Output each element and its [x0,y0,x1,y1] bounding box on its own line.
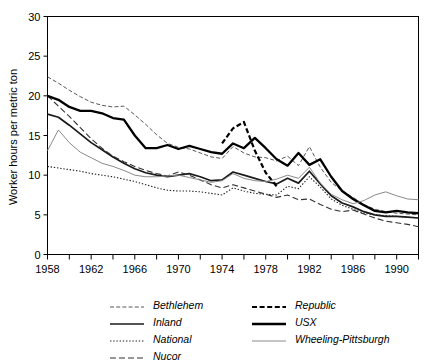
legend-swatch [110,299,144,311]
legend-swatch [252,316,286,328]
legend-item-label: Wheeling-Pittsburgh [295,333,390,345]
legend-item-label: USX [295,316,317,328]
series-line-nucor [48,96,419,227]
y-axis-label-text: Worker hours per metric ton [7,69,19,205]
x-tick-label: 1974 [210,263,234,275]
series-line-usx [48,96,419,213]
legend-item-wheeling-pittsburgh[interactable]: Wheeling-Pittsburgh [252,330,390,347]
legend-item-republic[interactable]: Republic [252,296,390,313]
y-tick-label: 5 [34,209,40,221]
x-tick-label: 1986 [341,263,365,275]
y-axis-label: Worker hours per metric ton [7,69,19,205]
legend-item-inland[interactable]: Inland [110,313,203,330]
y-tick-label: 20 [28,90,40,102]
legend-line-sample [110,335,144,347]
x-axis-ticks: 195819621966197019741978198219861990 [35,255,418,275]
legend-column-right: RepublicUSXWheeling-Pittsburgh [252,296,390,347]
x-tick-label: 1982 [297,263,321,275]
legend-line-sample [110,318,144,330]
series-line-bethlehem [48,77,419,215]
x-tick-label: 1990 [384,263,408,275]
legend-item-label: Inland [153,316,182,328]
plot-frame [48,17,419,255]
legend-line-sample [110,301,144,313]
legend-line-sample [252,318,286,330]
series-lines [48,77,419,227]
legend-item-label: National [153,333,192,345]
legend-item-bethlehem[interactable]: Bethlehem [110,296,203,313]
legend-line-sample [110,352,144,363]
legend-item-national[interactable]: National [110,330,203,347]
x-tick-label: 1978 [253,263,277,275]
series-line-wheeling-pittsburgh [48,130,419,204]
y-tick-label: 25 [28,50,40,62]
y-tick-label: 15 [28,130,40,142]
legend-column-left: BethlehemInlandNationalNucor [110,296,203,363]
legend-swatch [252,299,286,311]
chart-legend: BethlehemInlandNationalNucor RepublicUSX… [110,296,430,362]
y-axis-ticks: 051015202530 [28,11,47,261]
y-tick-label: 10 [28,169,40,181]
chart-figure: Worker hours per metric ton 051015202530… [0,0,432,363]
legend-swatch [252,333,286,345]
legend-swatch [110,350,144,362]
x-tick-label: 1958 [35,263,59,275]
x-tick-label: 1962 [79,263,103,275]
legend-line-sample [252,301,286,313]
legend-swatch [110,316,144,328]
legend-item-label: Nucor [153,350,181,362]
legend-item-usx[interactable]: USX [252,313,390,330]
legend-item-label: Bethlehem [153,299,203,311]
legend-line-sample [252,335,286,347]
x-tick-label: 1966 [123,263,147,275]
y-tick-label: 0 [34,249,40,261]
legend-swatch [110,333,144,345]
x-tick-label: 1970 [166,263,190,275]
legend-item-nucor[interactable]: Nucor [110,347,203,363]
legend-item-label: Republic [295,299,336,311]
y-tick-label: 30 [28,11,40,23]
